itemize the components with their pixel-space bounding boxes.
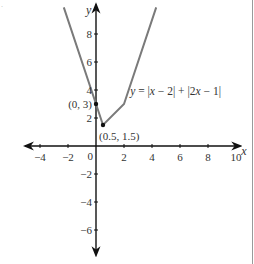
y-tick-label: 4	[87, 84, 93, 96]
y-tick-label: 2	[87, 112, 93, 124]
labels-group: xy−4−22468108642−2−4−60(0, 3)(0.5, 1.5)y…	[34, 3, 247, 236]
point-marker	[101, 123, 105, 127]
equation-part: − 1|	[201, 85, 221, 98]
origin-label: 0	[88, 150, 94, 162]
y-axis-label: y	[85, 3, 92, 17]
point-marker	[94, 102, 98, 106]
x-tick-label: −2	[62, 151, 74, 163]
equation-part: − 2| + |2	[155, 85, 196, 98]
equation-label: y = |x − 2| + |2x − 1|	[129, 85, 221, 98]
equation-part: = |	[135, 85, 150, 98]
y-tick-label: −2	[80, 168, 92, 180]
point-label: (0, 3)	[68, 98, 92, 111]
point-label: (0.5, 1.5)	[99, 130, 140, 143]
x-tick-label: 8	[205, 151, 211, 163]
y-tick-label: −4	[80, 196, 92, 208]
y-tick-label: 6	[87, 56, 93, 68]
x-tick-label: 2	[121, 151, 127, 163]
y-tick-label: −6	[80, 224, 92, 236]
x-tick-label: −4	[34, 151, 46, 163]
right-border	[252, 0, 254, 264]
graph-figure: xy−4−22468108642−2−4−60(0, 3)(0.5, 1.5)y…	[0, 0, 254, 264]
x-tick-label: 6	[177, 151, 183, 163]
plot-area: xy−4−22468108642−2−4−60(0, 3)(0.5, 1.5)y…	[0, 0, 254, 264]
corner-mark: .	[1, 2, 5, 8]
x-tick-label: 4	[149, 151, 155, 163]
y-tick-label: 8	[87, 28, 93, 40]
x-tick-label: 10	[231, 151, 243, 163]
